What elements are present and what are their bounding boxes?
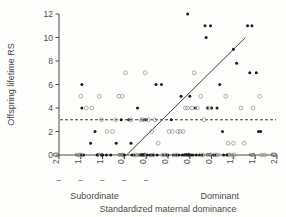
data-point-open [84,106,88,110]
data-point-open [190,106,194,110]
data-point-filled [160,83,163,86]
data-point-filled [188,95,191,98]
data-point-filled [250,24,253,27]
data-point-filled [248,71,251,74]
x-tick-minus-sign: − [57,175,62,185]
data-point-open [226,141,230,145]
data-point-filled [93,130,96,133]
axis-ticks [56,14,278,159]
data-point-open [156,141,160,145]
data-point-filled [209,24,212,27]
data-point-filled [180,95,183,98]
y-tick-label: 4 [48,103,53,113]
y-tick-label: 6 [48,80,53,90]
data-point-filled [218,83,221,86]
x-axis-group-label-subordinate: Subordinate [70,191,119,201]
x-axis-title: Standardized maternal dominance [99,204,236,214]
data-point-filled [232,48,235,51]
data-point-filled [156,154,159,157]
x-tick-label: 2.0 [269,152,279,164]
data-point-open [239,106,243,110]
data-point-open [192,71,196,75]
data-point-filled [205,36,208,39]
data-point-filled [155,83,158,86]
data-point-filled [146,154,149,157]
data-point-open [224,94,228,98]
data-point-filled [80,107,83,110]
data-point-filled [105,154,108,157]
data-point-filled [216,107,219,110]
data-point-open [105,130,109,134]
data-point-filled [89,142,92,145]
data-point-filled [246,24,249,27]
y-tick-label: 8 [48,56,53,66]
data-point-filled [235,62,238,65]
x-tick-minus-sign: − [144,175,149,185]
data-point-filled [222,154,225,157]
data-point-open [97,94,101,98]
data-point-filled [195,154,198,157]
data-point-open [232,141,236,145]
y-tick-label: 12 [44,9,54,19]
chart-canvas: 0246810122.0−1.6−1.2−0.8−0.4−00.40.81.21… [0,0,286,217]
x-tick-label: 2.0 [51,152,61,164]
data-point-open [258,94,262,98]
axis-titles: Offspring lifetime RSStandardized matern… [6,43,240,214]
data-point-filled [80,83,83,86]
data-points [79,13,267,157]
reference-and-trend-lines [60,38,276,156]
x-axis-group-label-dominant: Dominant [201,191,240,201]
data-point-filled [129,142,132,145]
data-point-open [90,106,94,110]
data-point-filled [123,154,126,157]
x-tick-label: 1.6 [247,152,257,164]
y-axis-title: Offspring lifetime RS [6,43,16,125]
data-point-filled [204,24,207,27]
x-tick-minus-sign: − [122,175,127,185]
data-point-filled [136,107,139,110]
data-point-open [242,141,246,145]
data-point-filled [170,118,173,121]
scatter-plot-figure: 0246810122.0−1.6−1.2−0.8−0.4−00.40.81.21… [0,0,286,217]
x-tick-label: 0.8 [204,152,214,164]
data-point-open [111,130,115,134]
y-tick-label: 2 [48,127,53,137]
x-tick-label: 0 [160,159,170,164]
x-tick-minus-sign: − [78,175,83,185]
data-point-filled [192,154,195,157]
data-point-open [143,71,147,75]
x-tick-minus-sign: − [100,175,105,185]
data-point-filled [141,154,144,157]
y-tick-label: 10 [44,33,54,43]
axes [59,14,277,155]
data-point-open [79,94,83,98]
data-point-filled [109,154,112,157]
data-point-filled [221,130,224,133]
data-point-filled [101,154,104,157]
data-point-open [199,94,203,98]
data-point-open [124,71,128,75]
data-point-filled [255,71,258,74]
data-point-filled [115,142,118,145]
data-point-filled [96,154,99,157]
data-point-open [251,106,255,110]
data-point-filled [259,130,262,133]
data-point-filled [186,13,189,16]
data-point-filled [120,118,123,121]
